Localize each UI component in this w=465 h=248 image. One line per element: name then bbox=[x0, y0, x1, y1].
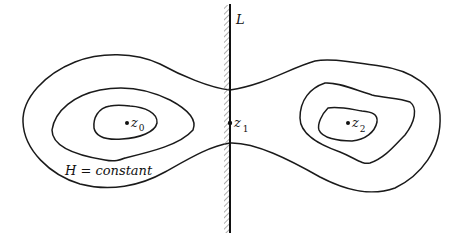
h-constant-label: H = constant bbox=[64, 163, 153, 178]
line-l-label: L bbox=[235, 12, 245, 27]
diagram-canvas: L z0 z1 z2 H = constant bbox=[0, 0, 465, 248]
point-z2-marker bbox=[346, 121, 350, 125]
level-curves-diagram: L z0 z1 z2 H = constant bbox=[0, 0, 465, 248]
point-z1-label: z1 bbox=[233, 115, 249, 134]
point-z0-marker bbox=[125, 121, 129, 125]
point-z2-label: z2 bbox=[351, 115, 366, 134]
middle-left-level-curve bbox=[52, 88, 194, 161]
point-z1-marker bbox=[228, 121, 232, 125]
point-z0-label: z0 bbox=[130, 115, 145, 133]
